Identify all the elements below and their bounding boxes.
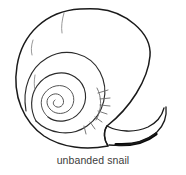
shell-body-outline <box>16 9 150 148</box>
snail-shell-figure: unbanded snail <box>0 0 186 175</box>
snail-shell-illustration <box>0 0 186 155</box>
figure-caption: unbanded snail <box>0 154 186 167</box>
